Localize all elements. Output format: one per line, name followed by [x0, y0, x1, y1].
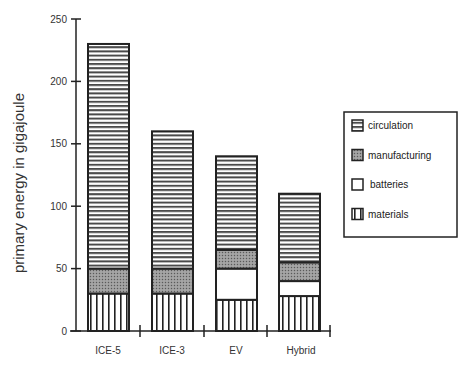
bar-ice-3 [152, 131, 193, 331]
legend: circulationmanufacturingbatteriesmateria… [344, 112, 457, 237]
stacked-bar-chart: primary energy in gigajoule 050100150200… [0, 0, 471, 369]
bar-segment-circulation [216, 156, 257, 250]
bar-segment-materials [88, 294, 129, 331]
bar-segment-circulation [152, 131, 193, 268]
bars [88, 44, 320, 331]
legend-swatch [352, 150, 363, 161]
legend-label: manufacturing [368, 150, 431, 161]
bar-segment-circulation [279, 194, 320, 263]
legend-item-circulation: circulation [352, 120, 413, 131]
legend-swatch [352, 209, 363, 220]
y-tick-label: 0 [61, 326, 67, 337]
y-axis-label: primary energy in gigajoule [10, 93, 27, 273]
y-tick-label: 250 [50, 14, 67, 25]
y-tick-label: 50 [56, 263, 68, 274]
bar-segment-manufacturing [88, 269, 129, 294]
bar-segment-manufacturing [152, 269, 193, 294]
x-tick-label: EV [229, 345, 243, 356]
y-tick-label: 100 [50, 201, 67, 212]
y-tick-label: 200 [50, 76, 67, 87]
bar-ev [216, 156, 257, 331]
legend-swatch [352, 179, 363, 190]
x-axis-labels: ICE-5ICE-3EVHybrid [95, 345, 315, 356]
bar-segment-materials [279, 296, 320, 331]
bar-segment-circulation [88, 44, 129, 269]
bar-hybrid [279, 194, 320, 331]
x-tick-label: ICE-3 [159, 345, 185, 356]
legend-label: batteries [370, 179, 408, 190]
legend-label: materials [368, 209, 409, 220]
bar-segment-batteries [216, 269, 257, 300]
x-tick-label: Hybrid [287, 345, 316, 356]
x-tick-label: ICE-5 [95, 345, 121, 356]
bar-segment-materials [152, 294, 193, 331]
y-tick-label: 150 [50, 138, 67, 149]
legend-swatch [352, 120, 363, 131]
bar-ice-5 [88, 44, 129, 331]
bar-segment-manufacturing [216, 250, 257, 269]
y-axis-title: primary energy in gigajoule [10, 93, 27, 273]
bar-segment-batteries [279, 281, 320, 296]
bar-segment-materials [216, 300, 257, 331]
bar-segment-manufacturing [279, 262, 320, 281]
legend-item-materials: materials [352, 209, 409, 220]
legend-item-batteries: batteries [352, 179, 408, 190]
legend-label: circulation [368, 120, 413, 131]
